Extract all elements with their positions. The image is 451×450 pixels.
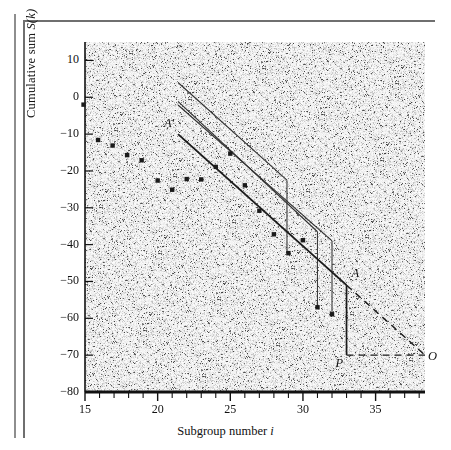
data-point-4	[125, 153, 129, 157]
x-axis-label: Subgroup number i	[0, 424, 451, 439]
y-axis-label: Cumulative sum S(k)	[24, 0, 39, 118]
label-a-prime: A′	[164, 116, 174, 131]
y-tick-label-10: 10	[33, 52, 79, 67]
data-point-6	[155, 178, 159, 182]
data-point-12	[243, 183, 247, 187]
plot-area	[85, 42, 425, 392]
mask-arm-3	[178, 105, 332, 241]
y-tick-label--20: −20	[33, 163, 79, 178]
mask-arm-1	[178, 83, 287, 181]
y-axis-label-symbol: S(k)	[24, 9, 38, 30]
data-point-14	[272, 232, 276, 236]
y-tick-label--40: −40	[33, 237, 79, 252]
page-rule-outer	[14, 14, 16, 438]
x-tick-label-15: 15	[65, 402, 105, 417]
x-axis-label-symbol: i	[270, 424, 273, 438]
data-point-7	[170, 188, 174, 192]
data-point-11	[228, 151, 232, 155]
y-tick-label--70: −70	[33, 347, 79, 362]
x-tick-label-30: 30	[283, 402, 323, 417]
y-tick-label--30: −30	[33, 200, 79, 215]
page-rule-top	[23, 20, 435, 22]
data-point-5	[139, 158, 143, 162]
y-tick-label--80: −80	[33, 384, 79, 399]
chart-canvas	[85, 42, 425, 392]
label-a: A	[352, 266, 360, 281]
label-o: O	[428, 349, 437, 364]
data-point-18	[330, 312, 334, 316]
y-tick-label--50: −50	[33, 273, 79, 288]
data-point-3	[110, 143, 114, 147]
y-tick-label--10: −10	[33, 126, 79, 141]
label-p: P	[336, 356, 344, 371]
dashed-segment-1	[347, 285, 425, 355]
cusum-chart-figure: 100−10−20−30−40−50−60−70−801520253035 A′…	[0, 0, 451, 450]
data-point-10	[214, 165, 218, 169]
x-tick-label-35: 35	[356, 402, 396, 417]
y-tick-label-0: 0	[33, 89, 79, 104]
data-point-1	[81, 102, 85, 106]
x-tick-label-20: 20	[138, 402, 178, 417]
data-point-16	[301, 238, 305, 242]
x-tick-label-25: 25	[210, 402, 250, 417]
mask-arm-4	[178, 134, 347, 285]
data-point-8	[185, 177, 189, 181]
data-point-13	[257, 209, 261, 213]
y-axis-label-text: Cumulative sum	[24, 33, 38, 118]
x-axis-label-text: Subgroup number	[177, 424, 267, 438]
data-point-2	[96, 138, 100, 142]
data-point-15	[286, 251, 290, 255]
data-point-9	[199, 177, 203, 181]
data-point-17	[315, 305, 319, 309]
y-tick-label--60: −60	[33, 310, 79, 325]
